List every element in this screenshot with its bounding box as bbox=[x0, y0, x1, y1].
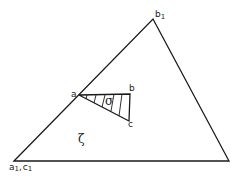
label-zeta: ζ bbox=[78, 132, 85, 146]
label-sigma: σ bbox=[105, 94, 113, 108]
label-c: c bbox=[128, 119, 133, 129]
label-b1: b1 bbox=[155, 9, 165, 21]
outer-triangle bbox=[14, 19, 229, 161]
label-a1-c1: a1,c1 bbox=[9, 162, 32, 173]
label-a: a bbox=[71, 89, 77, 99]
inner-triangle-hatching bbox=[86, 94, 122, 116]
label-b: b bbox=[129, 83, 135, 93]
triangle-diagram: b1 a b c σ ζ a1,c1 bbox=[0, 0, 240, 180]
